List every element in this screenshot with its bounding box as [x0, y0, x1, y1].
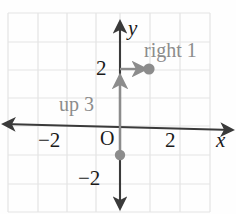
translation-vectors [120, 69, 145, 155]
coordinate-plane-graphic [0, 0, 236, 214]
x-tick-label-minus-2: −2 [38, 130, 60, 151]
image-point [143, 63, 154, 74]
annotation-right-1: right 1 [144, 40, 197, 60]
origin-label: O [100, 128, 114, 148]
preimage-point [115, 150, 125, 160]
coordinate-plane-figure: y x O 2 −2 2 −2 up 3 right 1 [0, 0, 236, 214]
y-axis-label: y [128, 18, 137, 39]
y-tick-label-2: 2 [96, 58, 107, 79]
x-axis-label: x [216, 130, 225, 151]
x-tick-label-2: 2 [165, 130, 176, 151]
y-tick-label-minus-2: −2 [78, 168, 100, 189]
annotation-up-3: up 3 [59, 94, 94, 114]
